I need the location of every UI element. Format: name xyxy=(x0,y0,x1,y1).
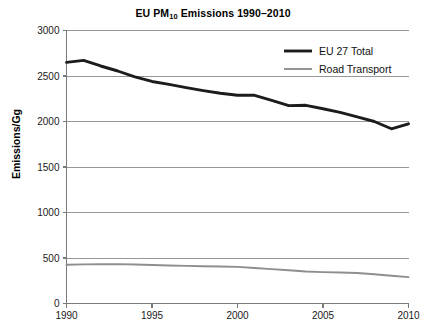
y-tick-label-500: 500 xyxy=(43,253,60,264)
x-axis-tick-labels: 19901995200020052010 xyxy=(55,310,420,321)
y-tick-label-1500: 1500 xyxy=(37,162,60,173)
y-tick-label-2000: 2000 xyxy=(37,116,60,127)
legend-label-1: Road Transport xyxy=(319,63,391,75)
chart-legend: EU 27 TotalRoad Transport xyxy=(284,45,391,75)
x-tick-label-1995: 1995 xyxy=(141,310,164,321)
x-tick-label-2010: 2010 xyxy=(397,310,420,321)
chart-figure: EU PM10 Emissions 1990–2010 Emissions/Gg… xyxy=(0,0,426,334)
x-tick-label-2000: 2000 xyxy=(226,310,249,321)
y-tick-label-2500: 2500 xyxy=(37,71,60,82)
y-tick-label-3000: 3000 xyxy=(37,25,60,36)
y-tick-label-0: 0 xyxy=(54,298,60,309)
data-series xyxy=(67,60,409,277)
legend-label-0: EU 27 Total xyxy=(319,45,373,57)
series-line-road-transport xyxy=(67,264,409,277)
x-tick-label-2005: 2005 xyxy=(312,310,335,321)
y-tick-label-1000: 1000 xyxy=(37,207,60,218)
y-axis-tick-labels: 050010001500200025003000 xyxy=(37,25,60,309)
x-tick-label-1990: 1990 xyxy=(55,310,78,321)
chart-plot: 050010001500200025003000 199019952000200… xyxy=(0,0,426,334)
